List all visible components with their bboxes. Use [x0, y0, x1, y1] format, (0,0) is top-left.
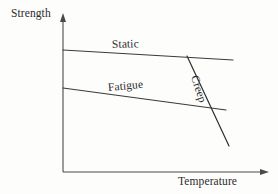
arrow-up-icon — [60, 13, 66, 22]
temperature-axis-label: Temperature — [178, 176, 237, 188]
curve-label-static: Static — [112, 38, 139, 50]
curve-static — [63, 50, 233, 60]
arrow-right-icon — [260, 169, 269, 175]
diagram-canvas — [0, 0, 278, 194]
curve-creep — [187, 56, 229, 146]
strength-temperature-diagram: Strength Temperature Static Fatigue Cree… — [0, 0, 278, 194]
strength-axis-label: Strength — [11, 8, 51, 20]
